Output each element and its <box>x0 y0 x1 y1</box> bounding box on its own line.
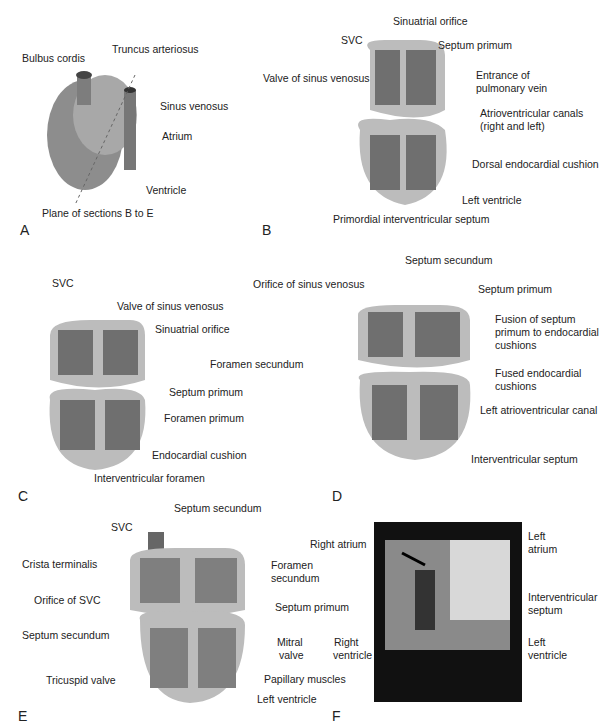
label-entrance-pulmonary-vein-2: pulmonary vein <box>476 82 547 94</box>
label-entrance-pulmonary-vein-1: Entrance of <box>476 69 530 81</box>
label-valve-sinus-venosus: Valve of sinus venosus <box>263 72 370 84</box>
label-svc-c: SVC <box>52 277 74 289</box>
label-right-ventricle-f-2: ventricle <box>333 649 372 661</box>
label-left-ventricle-f-1: Left <box>528 636 546 648</box>
label-fusion-3: cushions <box>495 339 536 351</box>
label-sinus-venosus: Sinus venosus <box>160 100 228 112</box>
label-iv-septum-f-1: Interventricular <box>528 591 597 603</box>
label-valve-sinus-venosus-c: Valve of sinus venosus <box>117 300 224 312</box>
panel-label-a: A <box>20 222 29 238</box>
label-svc-e: SVC <box>111 521 133 533</box>
panel-label-c: C <box>18 488 28 504</box>
label-mitral-valve-1: Mitral <box>277 636 303 648</box>
label-av-canals-2: (right and left) <box>480 120 545 132</box>
label-septum-secundum-e: Septum secundum <box>22 629 110 641</box>
label-right-ventricle-f-1: Right <box>334 636 359 648</box>
label-atrium: Atrium <box>162 130 192 142</box>
label-orifice-sinus-venosus: Orifice of sinus venosus <box>253 278 364 290</box>
label-iv-septum-f-2: septum <box>528 604 562 616</box>
section-d-illustration <box>358 305 470 460</box>
label-septum-secundum-d: Septum secundum <box>405 254 493 266</box>
section-b-illustration <box>358 40 447 205</box>
label-svc: SVC <box>341 34 363 46</box>
label-mitral-valve-2: valve <box>279 649 304 661</box>
label-foramen-primum: Foramen primum <box>164 412 244 424</box>
panel-label-f: F <box>332 708 341 724</box>
section-e-illustration <box>130 532 245 703</box>
label-fused-cushions-1: Fused endocardial <box>495 367 581 379</box>
label-interventricular-foramen: Interventricular foramen <box>94 472 205 484</box>
label-left-atrium-f-2: atrium <box>528 543 557 555</box>
label-septum-primum-c: Septum primum <box>169 386 243 398</box>
label-left-ventricle-b: Left ventricle <box>462 194 522 206</box>
panel-label-b: B <box>262 222 271 238</box>
label-left-av-canal: Left atrioventricular canal <box>480 404 597 416</box>
label-fused-cushions-2: cushions <box>495 380 536 392</box>
label-septum-secundum-e-top: Septum secundum <box>174 502 262 514</box>
label-av-canals-1: Atrioventricular canals <box>480 107 583 119</box>
label-sinuatrial-orifice: Sinuatrial orifice <box>393 15 468 27</box>
label-septum-primum-e: Septum primum <box>275 601 349 613</box>
label-primordial-iv-septum: Primordial interventricular septum <box>333 213 489 225</box>
label-septum-primum-d: Septum primum <box>478 283 552 295</box>
label-truncus-arteriosus: Truncus arteriosus <box>112 43 199 55</box>
label-sinuatrial-orifice-c: Sinuatrial orifice <box>155 323 230 335</box>
label-ventricle: Ventricle <box>146 184 186 196</box>
label-endocardial-cushion: Endocardial cushion <box>152 449 247 461</box>
label-right-atrium-f: Right atrium <box>310 538 367 550</box>
label-left-ventricle-e: Left ventricle <box>257 693 317 705</box>
label-plane-of-sections: Plane of sections B to E <box>42 207 153 219</box>
label-papillary-muscles: Papillary muscles <box>264 673 346 685</box>
label-left-ventricle-f-2: ventricle <box>528 649 567 661</box>
label-orifice-svc: Orifice of SVC <box>34 594 101 606</box>
label-bulbus-cordis: Bulbus cordis <box>22 52 85 64</box>
ultrasound-image <box>374 522 522 702</box>
label-foramen-secundum-e-1: Foramen <box>271 559 313 571</box>
panel-label-d: D <box>332 488 342 504</box>
label-tricuspid-valve: Tricuspid valve <box>46 674 116 686</box>
label-dorsal-endocardial-cushion: Dorsal endocardial cushion <box>472 158 599 170</box>
label-fusion-1: Fusion of septum <box>495 313 576 325</box>
label-foramen-secundum-e-2: secundum <box>271 572 319 584</box>
label-foramen-secundum-c: Foramen secundum <box>210 358 303 370</box>
label-fusion-2: primum to endocardial <box>495 326 599 338</box>
section-c-illustration <box>50 320 146 470</box>
embryonic-heart-illustration <box>47 71 137 205</box>
label-iv-septum-d: Interventricular septum <box>471 453 578 465</box>
label-left-atrium-f-1: Left <box>528 530 546 542</box>
panel-label-e: E <box>18 708 27 724</box>
label-septum-primum: Septum primum <box>438 39 512 51</box>
label-crista-terminalis: Crista terminalis <box>22 558 97 570</box>
